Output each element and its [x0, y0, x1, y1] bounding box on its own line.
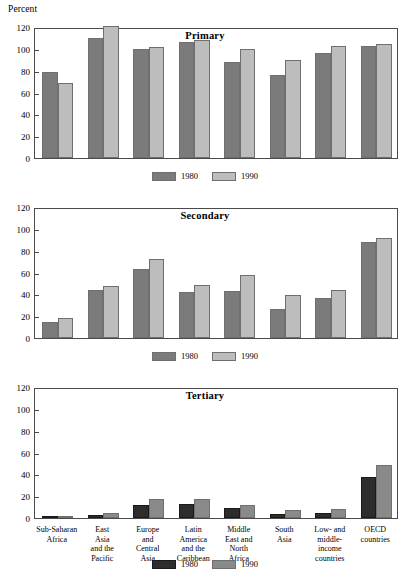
- x-axis-category-label: MiddleEast andNorthAfrica: [216, 525, 262, 563]
- chart-title-tertiary: Tertiary: [0, 390, 410, 401]
- y-axis-tick-label: 60: [0, 449, 30, 458]
- bar-group: [270, 389, 301, 518]
- bar-1990: [285, 295, 301, 338]
- bar-1980: [270, 309, 286, 338]
- bar-group: [179, 29, 210, 158]
- bar-group: [88, 389, 119, 518]
- y-axis-tick-label: 20: [0, 493, 30, 502]
- bar-1980: [224, 508, 240, 518]
- bar-1980: [133, 269, 149, 338]
- category-label-line: America: [171, 535, 217, 545]
- category-label-line: and the: [171, 544, 217, 554]
- category-label-line: Asia: [80, 535, 126, 545]
- y-axis-tick-mark: [34, 50, 39, 51]
- y-axis-tick-mark: [34, 94, 39, 95]
- bar-1980: [42, 516, 58, 518]
- y-axis-tick-mark: [34, 72, 39, 73]
- category-label-line: Central: [125, 544, 171, 554]
- category-label-line: Latin: [171, 525, 217, 535]
- legend-secondary: 1980 1990: [0, 352, 410, 361]
- category-label-line: Low- and: [307, 525, 353, 535]
- x-axis-category-label: Low- andmiddle-incomecountries: [307, 525, 353, 563]
- chart-title-secondary: Secondary: [0, 210, 410, 221]
- bar-group: [133, 389, 164, 518]
- bar-group: [224, 389, 255, 518]
- category-label-line: and the: [80, 544, 126, 554]
- bar-1990: [194, 499, 210, 518]
- bar-group: [224, 29, 255, 158]
- legend-swatch-1990: [212, 560, 236, 569]
- bar-1980: [133, 49, 149, 158]
- y-axis-tick-label: 80: [0, 67, 30, 76]
- y-axis-tick-mark: [34, 475, 39, 476]
- bar-1980: [270, 514, 286, 518]
- x-axis-category-label: OECDcountries: [353, 525, 399, 544]
- bar-1980: [315, 53, 331, 158]
- bar-1990: [103, 26, 119, 158]
- bar-1990: [331, 46, 347, 158]
- bar-1990: [103, 513, 119, 518]
- y-axis-tick-label: 20: [0, 313, 30, 322]
- bar-1980: [133, 505, 149, 518]
- legend-item-1990: 1990: [212, 172, 258, 181]
- y-axis-unit-label: Percent: [8, 4, 37, 14]
- category-label-line: East: [80, 525, 126, 535]
- bar-1990: [149, 499, 165, 518]
- category-label-line: North: [216, 544, 262, 554]
- bar-group: [361, 29, 392, 158]
- category-label-line: Middle: [216, 525, 262, 535]
- legend-swatch-1980: [152, 352, 176, 361]
- legend-swatch-1980: [152, 560, 176, 569]
- bar-series-primary: [35, 29, 397, 158]
- y-axis-tick-label: 100: [0, 225, 30, 234]
- legend-swatch-1990: [212, 352, 236, 361]
- bar-1980: [361, 46, 377, 158]
- bar-1990: [285, 510, 301, 518]
- bar-group: [315, 209, 346, 338]
- y-axis-tick-mark: [34, 252, 39, 253]
- bar-group: [361, 209, 392, 338]
- bar-1990: [194, 40, 210, 158]
- legend-item-1990: 1990: [212, 560, 258, 569]
- category-label-line: income: [307, 544, 353, 554]
- bar-1990: [58, 83, 74, 158]
- x-axis-category-label: Sub-SaharanAfrica: [34, 525, 80, 544]
- plot-area-primary: [34, 28, 398, 159]
- legend-item-1980: 1980: [152, 172, 198, 181]
- legend-label-1980: 1980: [181, 172, 198, 181]
- y-axis-tick-label: 0: [0, 335, 30, 344]
- category-label-line: Europe: [125, 525, 171, 535]
- bar-group: [315, 29, 346, 158]
- bar-series-secondary: [35, 209, 397, 338]
- x-axis-category-label: EuropeandCentralAsia: [125, 525, 171, 563]
- bar-group: [224, 209, 255, 338]
- y-axis-tick-mark: [34, 208, 39, 209]
- y-axis-tick-mark: [34, 230, 39, 231]
- bar-1990: [58, 318, 74, 338]
- bar-1990: [285, 60, 301, 158]
- x-axis-category-label: SouthAsia: [262, 525, 308, 544]
- figure-root: Percent Primary 020406080100120 1980 199…: [0, 0, 410, 578]
- bar-1980: [179, 42, 195, 158]
- legend-label-1990: 1990: [241, 352, 258, 361]
- legend-label-1990: 1990: [241, 560, 258, 569]
- bar-1980: [361, 242, 377, 338]
- bar-1980: [270, 75, 286, 158]
- y-axis-tick-mark: [34, 115, 39, 116]
- bar-group: [270, 209, 301, 338]
- bar-group: [179, 209, 210, 338]
- bar-1990: [240, 275, 256, 338]
- plot-area-tertiary: [34, 388, 398, 519]
- bar-1990: [331, 290, 347, 338]
- y-axis-tick-label: 60: [0, 269, 30, 278]
- bar-1980: [88, 38, 104, 158]
- y-axis-tick-label: 40: [0, 291, 30, 300]
- bar-group: [42, 29, 73, 158]
- bar-1990: [240, 49, 256, 158]
- x-axis-category-label: LatinAmericaand theCaribbean: [171, 525, 217, 563]
- legend-item-1990: 1990: [212, 352, 258, 361]
- y-axis-tick-mark: [34, 454, 39, 455]
- bar-group: [88, 209, 119, 338]
- bar-group: [133, 209, 164, 338]
- bar-1990: [376, 465, 392, 518]
